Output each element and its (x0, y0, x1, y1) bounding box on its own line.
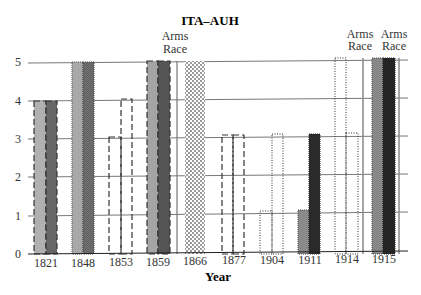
annotation-1914: Arms Race (347, 27, 374, 53)
annotation-1859: Arms Race (162, 29, 189, 56)
y-axis: 0 1 2 3 4 5 (15, 55, 21, 261)
bar-1911-b (309, 134, 320, 254)
svg-text:Race: Race (163, 42, 187, 56)
bar-1866 (185, 61, 205, 254)
svg-text:Arms: Arms (162, 29, 189, 43)
bar-1877-a (222, 135, 233, 254)
svg-text:5: 5 (15, 55, 21, 69)
svg-text:2: 2 (15, 170, 21, 184)
svg-text:Race: Race (382, 39, 406, 53)
bar-1821-b (46, 101, 57, 254)
bar-1911-a (298, 210, 309, 254)
bar-1914-a (335, 58, 346, 254)
bar-1914-b (346, 133, 358, 254)
svg-text:1853: 1853 (109, 255, 133, 269)
bar-1848-a (72, 62, 83, 254)
svg-text:0: 0 (15, 247, 21, 261)
svg-text:1915: 1915 (372, 252, 396, 266)
svg-text:1904: 1904 (260, 253, 284, 267)
svg-text:1: 1 (15, 209, 21, 223)
chart-title: ITA–AUH (181, 13, 239, 28)
svg-text:1859: 1859 (146, 255, 170, 269)
svg-text:1821: 1821 (34, 256, 58, 270)
bar-1853-a (109, 137, 121, 254)
bar-1904-b (272, 134, 283, 254)
bar-1821-a (34, 101, 46, 254)
x-axis-title: Year (205, 269, 231, 284)
bar-1859-a (147, 61, 158, 254)
svg-text:1848: 1848 (71, 256, 95, 270)
svg-text:1877: 1877 (222, 253, 246, 267)
bar-1859-b (158, 61, 170, 254)
svg-text:4: 4 (15, 94, 21, 108)
svg-text:1866: 1866 (183, 254, 207, 268)
svg-text:1914: 1914 (335, 252, 359, 266)
bar-1848-b (83, 62, 94, 254)
svg-text:3: 3 (15, 132, 21, 146)
bar-1915-a (372, 58, 383, 254)
bar-chart: ITA–AUH 0 1 2 3 4 5 (0, 0, 421, 295)
svg-text:Race: Race (348, 39, 372, 53)
bar-1877-b (233, 135, 244, 254)
bar-1915-b (383, 58, 395, 254)
annotation-1915: Arms Race (381, 27, 408, 53)
svg-text:1911: 1911 (298, 253, 322, 267)
x-axis-labels: 1821 1848 1853 1859 1866 1877 1904 1911 … (34, 252, 396, 270)
bars (34, 58, 399, 254)
bar-1904-a (260, 211, 272, 254)
